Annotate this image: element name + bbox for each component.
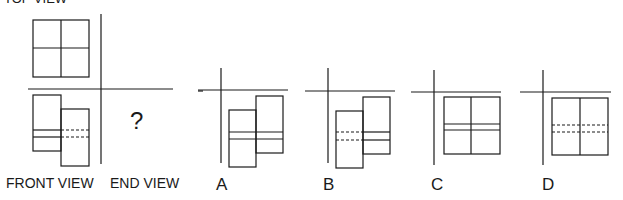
option-c-drawing xyxy=(411,70,501,165)
top-view-drawing xyxy=(33,20,89,77)
option-d-label[interactable]: D xyxy=(542,175,554,195)
front-view-label: FRONT VIEW xyxy=(6,175,94,191)
option-a-drawing xyxy=(198,68,288,167)
main-axes xyxy=(28,14,203,164)
orthographic-diagram xyxy=(0,0,623,200)
option-b-label[interactable]: B xyxy=(323,175,334,195)
option-d-drawing xyxy=(520,70,611,165)
option-a-label[interactable]: A xyxy=(216,175,227,195)
front-view-drawing xyxy=(33,95,89,166)
end-view-question-mark: ? xyxy=(130,107,143,135)
option-c-label[interactable]: C xyxy=(431,175,443,195)
end-view-label: END VIEW xyxy=(110,175,179,191)
option-b-drawing xyxy=(305,68,395,168)
